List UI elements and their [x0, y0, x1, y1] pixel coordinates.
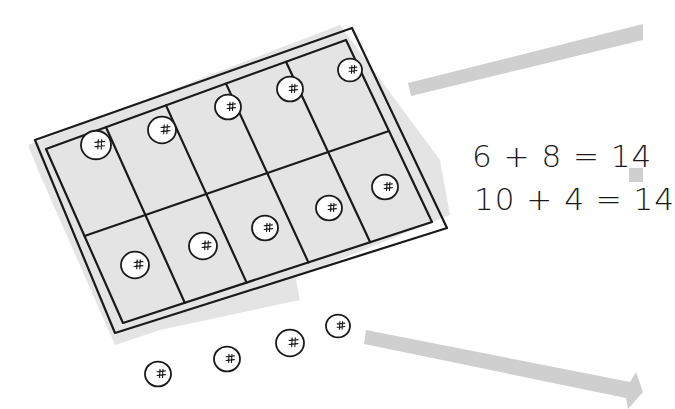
blueberry-in-frame [121, 252, 149, 279]
equation-10-plus-4: 10 + 4 = 14 [474, 184, 675, 215]
equation-6-plus-8: 6 + 8 = 14 [472, 141, 652, 172]
top-arrow-icon [408, 24, 643, 96]
blueberry-in-frame [316, 196, 342, 221]
blueberry-in-frame [277, 77, 303, 102]
blueberry-loose [145, 362, 171, 387]
bottom-arrow-icon [364, 330, 643, 409]
blueberry-in-frame [215, 95, 241, 120]
blueberry-in-frame [189, 233, 217, 260]
blueberry-in-frame [148, 117, 176, 144]
blueberry-loose [326, 315, 350, 338]
blueberry-in-frame [252, 216, 278, 241]
blueberry-loose [276, 330, 304, 357]
blueberry-in-frame [338, 59, 362, 82]
blueberry-in-frame [372, 175, 398, 200]
blueberry-loose [214, 347, 240, 372]
blueberry-in-frame [81, 131, 111, 160]
